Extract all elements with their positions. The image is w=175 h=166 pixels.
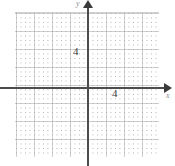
y-axis-tick-label-4: 4 — [73, 46, 79, 57]
y-axis-line — [87, 2, 89, 166]
coordinate-plane-figure: 4 4 y x — [0, 0, 175, 166]
x-axis-tick-label-4: 4 — [112, 88, 118, 99]
x-axis-line — [0, 87, 166, 89]
y-axis-arrow-icon — [83, 0, 93, 8]
x-axis-name-label: x — [166, 92, 170, 100]
y-axis-name-label: y — [76, 0, 80, 8]
